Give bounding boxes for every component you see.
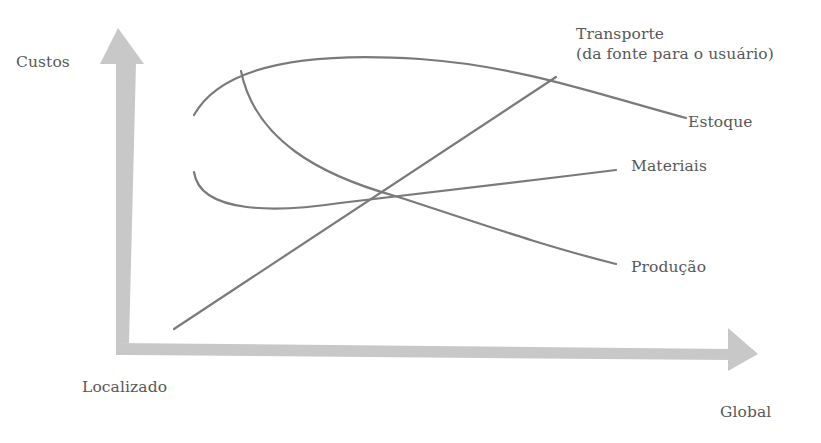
y-axis-arrow: [100, 28, 144, 343]
curve-label-transporte: Transporte (da fonte para o usuário): [576, 24, 774, 64]
curve-transporte: [174, 77, 556, 329]
curve-producao: [241, 71, 616, 264]
curve-label-transporte-line1: Transporte: [576, 24, 774, 44]
curve-estoque: [194, 57, 686, 118]
x-axis-origin-label: Localizado: [82, 377, 167, 397]
curve-label-transporte-line2: (da fonte para o usuário): [576, 44, 774, 64]
x-axis-end-label: Global: [720, 402, 771, 422]
curve-label-estoque: Estoque: [688, 112, 753, 132]
y-axis-label: Custos: [16, 52, 70, 72]
x-axis-arrow: [116, 328, 758, 371]
curve-label-producao: Produção: [631, 257, 706, 277]
cost-curves-diagram: Custos Localizado Global Transporte (da …: [0, 0, 821, 443]
curve-label-materiais: Materiais: [631, 156, 707, 176]
